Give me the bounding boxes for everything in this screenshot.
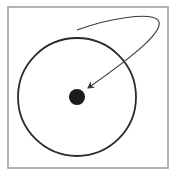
diagram-canvas xyxy=(0,0,177,179)
center-dot xyxy=(69,89,85,105)
curved-arrow-icon xyxy=(77,16,159,88)
